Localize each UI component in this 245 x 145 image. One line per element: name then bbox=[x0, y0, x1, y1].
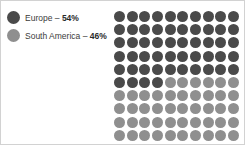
waffle-dot bbox=[114, 117, 125, 128]
legend-item-south-america-text: South America – 46% bbox=[25, 31, 107, 41]
circle-icon bbox=[7, 29, 20, 42]
waffle-dot bbox=[165, 103, 176, 114]
waffle-dot bbox=[190, 130, 201, 141]
waffle-dot bbox=[165, 90, 176, 101]
waffle-dot bbox=[177, 130, 188, 141]
waffle-dot bbox=[203, 90, 214, 101]
chart-legend: Europe – 54% South America – 46% bbox=[7, 9, 111, 45]
waffle-dot bbox=[177, 90, 188, 101]
waffle-dot bbox=[152, 24, 163, 35]
waffle-dot bbox=[203, 11, 214, 22]
waffle-dot bbox=[114, 11, 125, 22]
waffle-dot bbox=[177, 37, 188, 48]
waffle-dot bbox=[152, 77, 163, 88]
waffle-dot bbox=[177, 51, 188, 62]
waffle-dot bbox=[127, 37, 138, 48]
waffle-dot bbox=[190, 24, 201, 35]
waffle-dot bbox=[177, 103, 188, 114]
waffle-dot bbox=[228, 90, 239, 101]
waffle-dot bbox=[152, 51, 163, 62]
waffle-dot bbox=[190, 37, 201, 48]
waffle-dot bbox=[215, 103, 226, 114]
waffle-dot bbox=[114, 37, 125, 48]
waffle-dot bbox=[165, 51, 176, 62]
waffle-dot bbox=[203, 103, 214, 114]
waffle-dot bbox=[215, 24, 226, 35]
waffle-dot bbox=[215, 11, 226, 22]
waffle-dot bbox=[152, 103, 163, 114]
waffle-dot bbox=[190, 64, 201, 75]
waffle-dot bbox=[114, 51, 125, 62]
waffle-dot bbox=[177, 24, 188, 35]
waffle-dot bbox=[215, 64, 226, 75]
waffle-dot bbox=[228, 130, 239, 141]
waffle-dot bbox=[215, 117, 226, 128]
waffle-dot bbox=[139, 117, 150, 128]
waffle-dot bbox=[139, 64, 150, 75]
waffle-dot bbox=[203, 51, 214, 62]
waffle-dot bbox=[114, 130, 125, 141]
waffle-dot bbox=[165, 64, 176, 75]
waffle-dot bbox=[127, 90, 138, 101]
legend-item-europe-label: Europe bbox=[25, 13, 52, 23]
waffle-dot bbox=[152, 37, 163, 48]
waffle-dot bbox=[165, 24, 176, 35]
waffle-chart-infographic: Europe – 54% South America – 46% bbox=[0, 0, 245, 145]
waffle-dot bbox=[190, 11, 201, 22]
legend-item-south-america-separator: – bbox=[80, 31, 89, 41]
waffle-dot bbox=[165, 11, 176, 22]
waffle-dot bbox=[152, 11, 163, 22]
waffle-dot bbox=[114, 64, 125, 75]
waffle-dot bbox=[139, 24, 150, 35]
waffle-dot bbox=[127, 24, 138, 35]
waffle-dot bbox=[139, 51, 150, 62]
waffle-dot bbox=[203, 130, 214, 141]
waffle-dot bbox=[127, 51, 138, 62]
waffle-dot bbox=[203, 37, 214, 48]
waffle-dot bbox=[139, 77, 150, 88]
waffle-dot bbox=[177, 117, 188, 128]
waffle-dot bbox=[190, 103, 201, 114]
waffle-dot bbox=[177, 11, 188, 22]
waffle-dot bbox=[139, 11, 150, 22]
waffle-dot bbox=[114, 24, 125, 35]
waffle-dot bbox=[139, 37, 150, 48]
legend-item-south-america[interactable]: South America – 46% bbox=[7, 27, 111, 44]
waffle-dot bbox=[190, 51, 201, 62]
waffle-dot bbox=[228, 117, 239, 128]
waffle-dot bbox=[139, 130, 150, 141]
waffle-dot bbox=[228, 51, 239, 62]
waffle-dot-grid bbox=[113, 10, 240, 142]
waffle-dot bbox=[215, 90, 226, 101]
waffle-dot bbox=[203, 64, 214, 75]
waffle-dot bbox=[114, 90, 125, 101]
legend-item-europe[interactable]: Europe – 54% bbox=[7, 9, 111, 26]
waffle-dot bbox=[165, 117, 176, 128]
legend-item-south-america-value: 46% bbox=[90, 31, 107, 41]
waffle-dot bbox=[139, 103, 150, 114]
waffle-dot bbox=[152, 130, 163, 141]
waffle-dot bbox=[215, 77, 226, 88]
waffle-dot bbox=[228, 37, 239, 48]
waffle-dot bbox=[165, 37, 176, 48]
waffle-dot bbox=[177, 64, 188, 75]
waffle-dot bbox=[177, 77, 188, 88]
waffle-dot bbox=[215, 37, 226, 48]
waffle-dot bbox=[127, 77, 138, 88]
circle-icon bbox=[7, 11, 20, 24]
waffle-dot bbox=[190, 117, 201, 128]
waffle-dot bbox=[152, 90, 163, 101]
waffle-dot bbox=[228, 64, 239, 75]
waffle-dot bbox=[127, 11, 138, 22]
waffle-dot bbox=[114, 103, 125, 114]
waffle-dot bbox=[127, 130, 138, 141]
waffle-dot bbox=[114, 77, 125, 88]
waffle-dot bbox=[152, 64, 163, 75]
waffle-dot bbox=[203, 117, 214, 128]
waffle-dot bbox=[215, 130, 226, 141]
waffle-dot bbox=[127, 103, 138, 114]
waffle-dot bbox=[203, 24, 214, 35]
waffle-dot bbox=[228, 103, 239, 114]
waffle-dot bbox=[203, 77, 214, 88]
waffle-dot bbox=[228, 11, 239, 22]
